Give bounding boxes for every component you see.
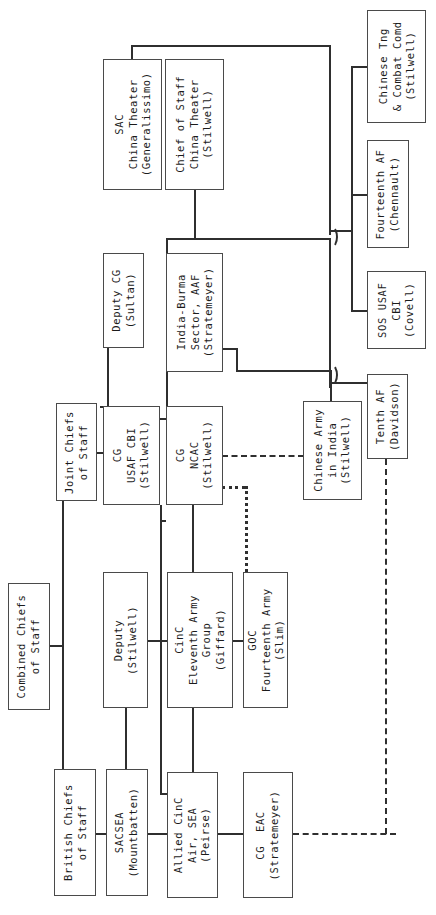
node-label-joint-chiefs: Joint Chiefs of Staff — [63, 410, 90, 493]
link-british-to-sacsea — [96, 833, 106, 835]
node-label-sos-usaf-cbi: SOS USAF CBI (Covell) — [376, 282, 417, 337]
link-sacsea-to-deputy — [125, 708, 127, 772]
link-cos-down-horizontal — [166, 238, 329, 240]
node-label-tenth-af: Tenth AF (Davidson) — [374, 382, 401, 451]
link-indiaburma-left — [222, 348, 236, 350]
node-tenth-af[interactable]: Tenth AF (Davidson) — [367, 374, 408, 459]
dashed-cgeac-to-right — [293, 833, 396, 835]
node-cos-china-theater[interactable]: Chief of Staff China Theater (Stilwell) — [165, 59, 224, 190]
link-right-branch-vertical — [351, 66, 353, 310]
link-alliedcinc-to-cgeac — [218, 833, 243, 835]
node-cg-eac[interactable]: CG EAC (Stratemeyer) — [243, 772, 293, 898]
node-india-burma-aaf[interactable]: India-Burma Sector, AAF (Stratemeyer) — [166, 253, 223, 372]
node-british-chiefs[interactable]: British Chiefs of Staff — [54, 769, 96, 896]
node-label-cos-china-theater: Chief of Staff China Theater (Stilwell) — [174, 76, 215, 173]
link-to-chinesetng — [351, 66, 367, 68]
line-hop-upper — [325, 226, 338, 248]
node-label-india-burma-aaf: India-Burma Sector, AAF (Stratemeyer) — [174, 268, 215, 358]
link-sac-to-cos — [131, 45, 133, 59]
link-sac-right-down — [329, 45, 331, 235]
node-joint-chiefs[interactable]: Joint Chiefs of Staff — [56, 403, 97, 501]
node-sac-china-theater[interactable]: SAC China Theater (Generalissimo) — [103, 59, 162, 190]
node-chinese-army-india[interactable]: Chinese Army in India (Stilwell) — [303, 401, 362, 500]
node-sos-usaf-cbi[interactable]: SOS USAF CBI (Covell) — [367, 271, 426, 349]
link-to-fourteenthaf — [351, 194, 367, 196]
node-cinc-eleventh-army[interactable]: CinC Eleventh Army Group (Giffard) — [167, 572, 233, 708]
node-label-cg-eac: CG EAC (Stratemeyer) — [255, 790, 282, 880]
node-label-goc-fourteenth-army: GOC Fourteenth Army (Slim) — [245, 588, 286, 692]
node-label-cg-ncac: CG NCAC (Stilwell) — [174, 421, 215, 490]
node-chinese-tng-combat[interactable]: Chinese Tng & Combat Comd (Stilwell) — [367, 10, 426, 123]
node-cg-ncac[interactable]: CG NCAC (Stilwell) — [166, 406, 223, 505]
node-label-combined-chiefs: Combined Chiefs of Staff — [16, 595, 43, 699]
link-spine-to-cgncac — [160, 520, 166, 522]
node-label-sac-china-theater: SAC China Theater (Generalissimo) — [112, 73, 153, 177]
node-label-sacsea: SACSEA (Mountbatten) — [114, 788, 141, 878]
node-label-chinese-army-india: Chinese Army in India (Stilwell) — [312, 409, 353, 492]
node-sacsea[interactable]: SACSEA (Mountbatten) — [106, 769, 148, 896]
dotted-goc14-vertical — [245, 486, 248, 572]
dashed-tenthaf-down — [385, 459, 387, 834]
node-allied-cinc-air-sea[interactable]: Allied CinC Air, SEA (Peirse) — [167, 772, 218, 898]
link-sacsea-to-alliedcinc — [148, 833, 168, 835]
link-to-sosusaf — [351, 310, 367, 312]
link-to-tenthaf — [331, 382, 367, 384]
node-fourteenth-af[interactable]: Fourteenth AF (Chennault) — [367, 140, 409, 248]
link-trunk-vertical — [62, 452, 64, 794]
link-cinc11-to-goc14 — [233, 640, 243, 642]
node-deputy-cg[interactable]: Deputy CG (Sultan) — [103, 253, 144, 348]
dotted-cgncac-horizontal — [222, 486, 245, 489]
link-indiaburma-to-junction — [236, 370, 331, 372]
node-label-british-chiefs: British Chiefs of Staff — [62, 784, 89, 881]
node-label-chinese-tng-combat: Chinese Tng & Combat Comd (Stilwell) — [376, 22, 417, 112]
link-indiaburma-down — [236, 348, 238, 372]
link-sac-top-horizontal — [131, 45, 331, 47]
node-label-allied-cinc-air-sea: Allied CinC Air, SEA (Peirse) — [172, 797, 213, 873]
line-hop-lower — [325, 364, 338, 386]
dashed-cgncac-to-chinesearmy — [222, 455, 304, 457]
link-cgusaf-to-deputycg — [107, 348, 109, 406]
node-cg-usaf-cbi[interactable]: CG USAF CBI (Stilwell) — [103, 406, 160, 505]
link-cos-to-cgusaf — [194, 190, 196, 238]
node-goc-fourteenth-army[interactable]: GOC Fourteenth Army (Slim) — [243, 572, 288, 708]
node-combined-chiefs[interactable]: Combined Chiefs of Staff — [8, 583, 50, 710]
link-deputy-spine-vertical — [160, 505, 162, 795]
node-label-cinc-eleventh-army: CinC Eleventh Army Group (Giffard) — [173, 595, 227, 685]
org-chart-canvas: Combined Chiefs of Staff British Chiefs … — [0, 0, 436, 915]
node-deputy-sacsea[interactable]: Deputy (Stilwell) — [103, 572, 148, 708]
node-label-deputy-sacsea: Deputy (Stilwell) — [112, 605, 139, 674]
node-label-deputy-cg: Deputy CG (Sultan) — [110, 269, 137, 331]
node-label-cg-usaf-cbi: CG USAF CBI (Stilwell) — [111, 421, 152, 490]
node-label-fourteenth-af: Fourteenth AF (Chennault) — [375, 149, 402, 239]
